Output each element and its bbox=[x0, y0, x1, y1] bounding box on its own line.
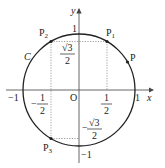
label-p: P bbox=[130, 52, 136, 63]
y-axis-label: y bbox=[70, 5, 76, 16]
svg-text:√3: √3 bbox=[62, 42, 73, 53]
svg-text:2: 2 bbox=[104, 105, 109, 116]
svg-text:−: − bbox=[31, 98, 37, 109]
unit-circle-diagram: y x O C P P1 P2 P3 1 −1 1 −1 1 2 − 1 2 √… bbox=[0, 0, 165, 168]
x-axis-label: x bbox=[146, 92, 152, 103]
tick-y-pos-one: 1 bbox=[72, 23, 77, 34]
label-p1: P1 bbox=[106, 27, 116, 40]
tick-x-pos-one: 1 bbox=[135, 92, 140, 103]
point-p1 bbox=[105, 40, 108, 43]
point-p bbox=[126, 60, 129, 63]
svg-text:2: 2 bbox=[40, 105, 45, 116]
tick-y-pos-root3-half: √3 2 bbox=[60, 42, 75, 66]
svg-text:2: 2 bbox=[92, 130, 97, 141]
label-p3: P3 bbox=[43, 142, 53, 155]
tick-x-neg-half: − 1 2 bbox=[31, 92, 48, 116]
tick-x-pos-half: 1 2 bbox=[101, 92, 112, 116]
svg-text:√3: √3 bbox=[89, 117, 100, 128]
label-p2: P2 bbox=[39, 27, 49, 40]
origin-label: O bbox=[70, 92, 77, 103]
tick-x-neg-one: −1 bbox=[8, 92, 19, 103]
curve-label-c: C bbox=[24, 51, 31, 62]
svg-text:1: 1 bbox=[40, 92, 45, 103]
tick-y-neg-root3-half: − √3 2 bbox=[82, 117, 102, 141]
tick-y-neg-one: −1 bbox=[81, 149, 92, 160]
point-p2 bbox=[49, 40, 52, 43]
svg-text:2: 2 bbox=[65, 55, 70, 66]
point-p3 bbox=[49, 137, 52, 140]
svg-text:−: − bbox=[82, 122, 88, 133]
svg-text:1: 1 bbox=[104, 92, 109, 103]
